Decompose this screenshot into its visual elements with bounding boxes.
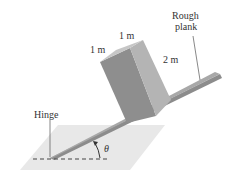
plank-leader-line bbox=[193, 36, 200, 80]
ground-plane bbox=[20, 125, 165, 170]
rough-plank-label-line1: Rough bbox=[172, 10, 199, 21]
box-depth-dimension: 1 m bbox=[90, 44, 106, 55]
inclined-plank-diagram: Rough plank Hinge θ 1 m 1 m 2 m bbox=[0, 0, 228, 178]
rough-plank-label-line2: plank bbox=[175, 21, 197, 32]
box-height-dimension: 2 m bbox=[163, 54, 179, 65]
angle-label: θ bbox=[104, 143, 109, 154]
hinge-label: Hinge bbox=[34, 109, 59, 120]
box-width-dimension: 1 m bbox=[119, 30, 135, 41]
